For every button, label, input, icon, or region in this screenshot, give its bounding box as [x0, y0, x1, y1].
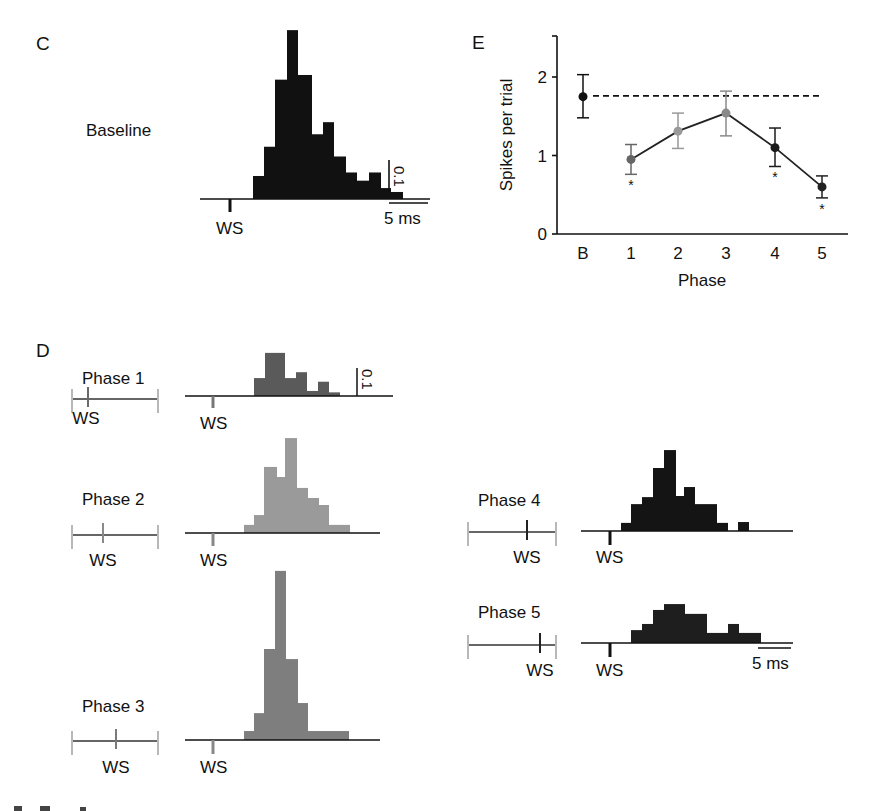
- histogram-bar: [319, 505, 329, 533]
- histogram-bar: [285, 438, 297, 533]
- histogram-bar: [254, 378, 265, 396]
- spikes-per-trial-plot: 012B12345***: [538, 36, 848, 263]
- histogram-bar: [286, 659, 298, 740]
- x-tick-label: 2: [673, 244, 682, 263]
- timeline-ws-label: WS: [102, 758, 129, 777]
- histogram-bar: [298, 703, 308, 740]
- histogram-bar: [307, 391, 318, 396]
- histogram-bar: [738, 522, 749, 531]
- phase5-bars: [631, 604, 761, 643]
- histogram-bar: [684, 487, 695, 531]
- histogram-bar: [312, 134, 323, 199]
- phase-label: Phase 1: [82, 369, 144, 388]
- timeline-ws-label: WS: [513, 548, 540, 567]
- y-axis-label: Spikes per trial: [497, 79, 516, 191]
- histogram-bar: [346, 172, 357, 199]
- data-point: [818, 182, 827, 191]
- cropped-caption-fragment: [14, 806, 86, 811]
- y-tick-label: 0: [538, 225, 547, 244]
- data-point: [771, 143, 780, 152]
- phase-label: Phase 4: [478, 491, 540, 510]
- x-tick-label: B: [577, 244, 588, 263]
- histogram-bar: [318, 382, 329, 396]
- phase2-bars: [244, 438, 350, 533]
- panel-letter-e: E: [472, 32, 485, 53]
- histogram-bar: [254, 713, 264, 740]
- y-tick-label: 2: [538, 68, 547, 87]
- histogram-bar: [264, 147, 275, 199]
- histogram-bar: [277, 477, 285, 533]
- phase2-ws-label: WS: [200, 551, 227, 570]
- histogram-bar: [334, 156, 346, 199]
- histogram-bar: [728, 624, 739, 643]
- histogram-bar: [717, 523, 728, 531]
- histogram-bar: [323, 122, 334, 199]
- significance-asterisk: *: [819, 201, 825, 217]
- histogram-bar: [253, 176, 264, 199]
- histogram-bar: [285, 378, 296, 396]
- baseline-bars: [253, 30, 403, 199]
- baseline-label: Baseline: [86, 121, 151, 140]
- histogram-bar: [297, 488, 308, 533]
- phase4-ws-label: WS: [596, 548, 623, 567]
- phase-timelines: Phase 1WSPhase 2WSPhase 3WSPhase 4WSPhas…: [72, 369, 556, 777]
- panel-c-baseline-histogram: Baseline WS 0.1 5 ms: [86, 30, 430, 238]
- phase3-ws-label: WS: [200, 758, 227, 777]
- histogram-bar: [264, 649, 275, 740]
- histogram-bar: [308, 731, 349, 740]
- histogram-bar: [296, 372, 307, 396]
- histogram-bar: [265, 353, 285, 396]
- histogram-bar: [631, 630, 642, 643]
- ws-label: WS: [216, 219, 243, 238]
- time-scale-label: 5 ms: [384, 209, 421, 228]
- phase4-bars: [621, 450, 749, 531]
- histogram-bar: [275, 80, 287, 199]
- data-point: [722, 109, 731, 118]
- phase-label: Phase 3: [82, 697, 144, 716]
- phase1-ws-label: WS: [200, 414, 227, 433]
- histogram-bar: [244, 525, 254, 533]
- histogram-bar: [707, 633, 728, 643]
- timeline-ws-label: WS: [72, 409, 99, 428]
- histogram-bar: [329, 525, 350, 533]
- figure-canvas: C D E Baseline WS 0.1 5 ms WS 0.1 WS WS: [0, 0, 881, 811]
- panel-d-phase-histograms: WS 0.1 WS WS WS WS 5 ms Phase 1WSPhase 2…: [72, 353, 793, 777]
- x-tick-label: 1: [626, 244, 635, 263]
- data-point: [627, 155, 636, 164]
- phase3-bars: [244, 571, 349, 740]
- data-point: [674, 127, 683, 136]
- histogram-bar: [264, 467, 277, 533]
- y-tick-label: 1: [538, 147, 547, 166]
- histogram-bar: [664, 450, 676, 531]
- histogram-bar: [664, 604, 685, 643]
- phase5-time-scale-label: 5 ms: [752, 654, 789, 673]
- histogram-bar: [357, 181, 369, 199]
- phase-label: Phase 2: [82, 490, 144, 509]
- histogram-bar: [621, 523, 631, 531]
- phase1-bars: [254, 353, 340, 396]
- significance-asterisk: *: [772, 169, 778, 185]
- histogram-bar: [707, 504, 717, 531]
- phase1-probability-scale-label: 0.1: [359, 369, 376, 390]
- panel-letter-d: D: [36, 340, 50, 361]
- histogram-bar: [298, 75, 312, 199]
- x-axis-label: Phase: [678, 271, 726, 290]
- histogram-bar: [653, 610, 664, 643]
- phase5-ws-label: WS: [596, 661, 623, 680]
- panel-e-spikes-per-trial-chart: 012B12345*** Spikes per trial Phase: [497, 36, 848, 290]
- timeline-ws-label: WS: [89, 551, 116, 570]
- phase-label: Phase 5: [478, 603, 540, 622]
- histogram-bar: [631, 504, 642, 531]
- x-tick-label: 4: [770, 244, 779, 263]
- histogram-bar: [695, 504, 707, 531]
- histogram-bar: [676, 496, 684, 531]
- histogram-bar: [275, 571, 286, 740]
- histogram-bar: [308, 498, 319, 533]
- histogram-bar: [653, 468, 664, 531]
- histogram-bar: [685, 614, 707, 643]
- x-tick-label: 3: [721, 244, 730, 263]
- histogram-bar: [369, 172, 381, 199]
- probability-scale-label: 0.1: [391, 166, 408, 187]
- histogram-bar: [254, 515, 264, 533]
- data-point: [579, 92, 588, 101]
